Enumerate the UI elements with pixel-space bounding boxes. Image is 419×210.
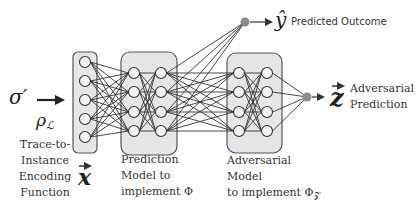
rho-subscript: ℒ [46,119,55,132]
input-node [80,95,91,106]
input-caption-line: Instance [21,154,69,167]
prediction-caption: Prediction Model to implement Φ [121,153,193,198]
adversarial-prediction-label-line: Prediction [350,98,408,111]
prediction-layer2-node [156,87,167,98]
nn-diagram: σ′ ρℒ Trace-to- Instance Encoding Functi… [0,0,419,210]
y-hat-symbol: ŷ [274,8,287,32]
x-vector-symbol: x [77,164,92,190]
input-caption: Trace-to- Instance Encoding Function [19,138,72,199]
predicted-outcome-label: Predicted Outcome [291,16,387,27]
prediction-layer1-node [129,126,140,137]
input-caption-line: Function [20,186,70,199]
adversarial-layer2-node [262,126,273,137]
input-node [80,114,91,125]
prediction-layer2-node [156,107,167,118]
adversarial-caption-main: to implement Φ [227,186,314,199]
prediction-caption-line: implement Φ [121,185,193,198]
adversarial-caption: Adversarial Model to implement Φ𝒵 [226,154,321,200]
adversarial-caption-line: to implement Φ𝒵 [227,186,321,200]
predicted-output-node [241,18,250,27]
input-caption-line: Encoding [19,170,72,183]
prediction-layer2-node [156,126,167,137]
prediction-layer1-node [129,68,140,79]
adversarial-layer1-node [234,87,245,98]
adversarial-layer2-node [262,68,273,79]
prediction-caption-line: Model to [121,169,171,182]
adversarial-model-box [227,53,282,153]
prediction-layer1-node [129,87,140,98]
adversarial-prediction-label-line: Adversarial [349,82,415,95]
adversarial-layer1-node [234,126,245,137]
z-vector-symbol: z [329,83,345,112]
input-node [80,57,91,68]
prediction-layer1-node [129,107,140,118]
prediction-caption-line: Prediction [121,153,179,166]
rho-main: ρ [35,110,46,130]
adversarial-caption-sub: 𝒵 [314,191,321,200]
input-caption-line: Trace-to- [20,138,71,151]
input-node [80,76,91,87]
adversarial-caption-line: Adversarial [226,154,292,167]
adversarial-layer2-node [262,107,273,118]
input-node [80,132,91,143]
prediction-layer2-node [156,68,167,79]
rho-symbol: ρℒ [35,110,55,132]
adversarial-layer1-node [234,68,245,79]
adversarial-caption-line: Model [227,170,262,183]
adversarial-layer2-node [262,87,273,98]
adversarial-layer1-node [234,107,245,118]
adversarial-output-node [303,93,312,102]
sigma-prime-symbol: σ′ [9,85,28,109]
